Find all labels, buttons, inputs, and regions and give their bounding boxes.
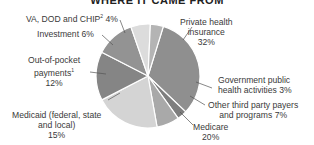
label-line: VA, DOD and CHIP <box>26 14 100 24</box>
label-gov-public-health: Government public health activities 3% <box>218 75 292 95</box>
footnote-marker: 1 <box>71 67 74 73</box>
label-medicare: Medicare 20% <box>193 122 228 142</box>
label-line: Private health <box>180 17 233 27</box>
label-line: health activities 3% <box>218 85 292 95</box>
label-value: 4% <box>103 14 118 24</box>
label-line: and local) <box>12 120 101 130</box>
label-medicaid: Medicaid (federal, state and local) 15% <box>12 110 101 140</box>
label-other-third-party: Other third party payers and programs 7% <box>208 100 298 120</box>
label-va-dod-chip: VA, DOD and CHIP2 4% <box>26 11 118 24</box>
label-out-of-pocket: Out-of-pocket payments1 12% <box>28 55 80 88</box>
label-line: Medicare <box>193 122 228 132</box>
label-line: and programs 7% <box>208 110 298 120</box>
label-line: Medicaid (federal, state <box>12 110 101 120</box>
label-line: payments <box>34 68 71 78</box>
label-line: Investment 6% <box>37 29 94 39</box>
label-value: 15% <box>12 130 101 140</box>
label-line: Other third party payers <box>208 100 298 110</box>
label-private-insurance: Private health insurance 32% <box>180 17 233 47</box>
label-value: 32% <box>180 37 233 47</box>
label-line: insurance <box>180 27 233 37</box>
label-value: 12% <box>28 78 80 88</box>
label-line: Government public <box>218 75 292 85</box>
label-value: 20% <box>193 132 228 142</box>
label-line: Out-of-pocket <box>28 55 80 65</box>
label-investment: Investment 6% <box>37 29 94 39</box>
